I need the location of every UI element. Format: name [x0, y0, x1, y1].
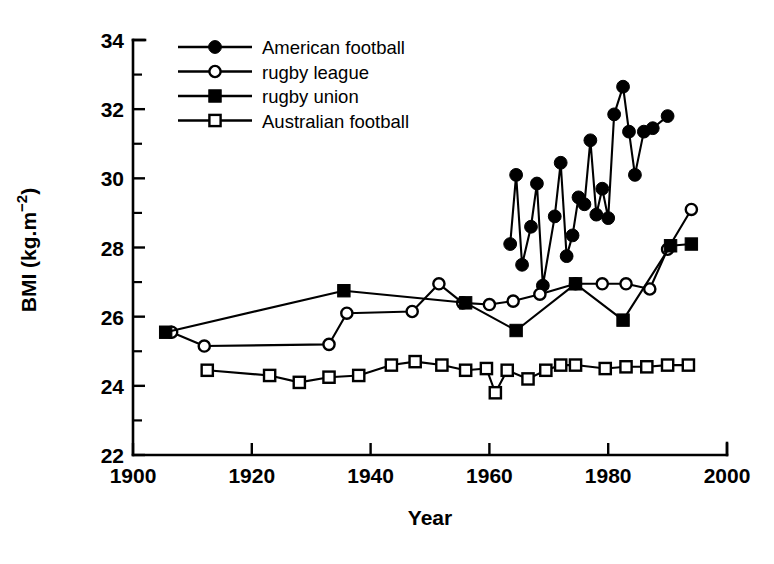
data-point-1-4: [407, 306, 418, 317]
data-point-3-12: [522, 373, 533, 384]
data-point-2-3: [510, 324, 522, 336]
data-point-0-15: [602, 212, 615, 225]
series-american-football: [504, 80, 674, 292]
data-point-3-15: [570, 359, 581, 370]
data-point-0-14: [596, 182, 609, 195]
legend-label-3: Australian football: [262, 111, 409, 132]
x-tick-label-1920: 1920: [228, 464, 275, 487]
legend-marker-filled-circle: [209, 41, 222, 54]
bmi-trend-line-chart: 22242628303234 190019201940196019802000 …: [0, 0, 774, 564]
data-point-3-17: [620, 361, 631, 372]
data-point-3-3: [323, 372, 334, 383]
legend-marker-open-circle: [209, 66, 220, 77]
series-rugby-league: [166, 204, 697, 352]
data-point-0-22: [661, 110, 674, 123]
x-tick-label-1960: 1960: [466, 464, 513, 487]
x-tick-label-1980: 1980: [585, 464, 632, 487]
y-tick-label-32: 32: [101, 98, 124, 121]
data-point-1-2: [323, 339, 334, 350]
data-point-2-6: [664, 240, 676, 252]
data-point-0-2: [516, 258, 529, 271]
legend-item-american-football[interactable]: American football: [178, 37, 405, 58]
y-axis-ticks: [133, 40, 145, 455]
data-point-1-11: [597, 278, 608, 289]
y-axis-title-exponent: −2: [13, 195, 30, 212]
y-axis-tick-labels: 22242628303234: [101, 29, 125, 467]
x-axis-title: Year: [408, 506, 452, 529]
data-point-2-7: [685, 238, 697, 250]
y-tick-label-30: 30: [101, 167, 124, 190]
legend-marker-open-square: [209, 115, 220, 126]
y-axis-title-base: BMI (kg.m: [17, 212, 40, 312]
data-point-1-1: [199, 340, 210, 351]
y-tick-label-28: 28: [101, 237, 125, 260]
data-point-3-8: [460, 365, 471, 376]
data-point-1-12: [620, 278, 631, 289]
data-point-1-9: [534, 289, 545, 300]
series-rugby-union: [159, 238, 697, 339]
y-tick-label-26: 26: [101, 306, 124, 329]
data-point-0-6: [548, 210, 561, 223]
data-point-0-8: [560, 250, 573, 263]
data-point-3-19: [662, 359, 673, 370]
data-point-3-14: [555, 359, 566, 370]
data-point-2-1: [338, 285, 350, 297]
x-tick-label-1940: 1940: [347, 464, 394, 487]
data-point-2-0: [159, 326, 171, 338]
y-axis-title-tail: ): [17, 188, 40, 195]
x-tick-label-1900: 1900: [110, 464, 157, 487]
data-point-3-9: [481, 363, 492, 374]
data-point-2-2: [459, 297, 471, 309]
data-point-3-18: [641, 361, 652, 372]
data-point-0-4: [531, 177, 544, 190]
data-point-3-2: [294, 377, 305, 388]
data-point-2-4: [569, 278, 581, 290]
data-point-0-12: [584, 134, 597, 147]
x-tick-label-2000: 2000: [704, 464, 751, 487]
legend-item-rugby-league[interactable]: rugby league: [178, 62, 369, 83]
data-point-3-7: [436, 359, 447, 370]
data-point-0-16: [608, 108, 621, 121]
data-point-0-0: [504, 238, 517, 251]
data-point-1-8: [508, 296, 519, 307]
y-tick-label-24: 24: [101, 375, 125, 398]
data-point-3-6: [410, 356, 421, 367]
data-point-0-18: [623, 125, 636, 138]
data-point-0-3: [525, 220, 538, 233]
series-line-1: [172, 209, 692, 346]
data-point-3-10: [490, 387, 501, 398]
data-point-0-11: [578, 198, 591, 211]
data-point-0-1: [510, 168, 523, 181]
x-axis-tick-labels: 190019201940196019802000: [110, 464, 751, 487]
legend-item-rugby-union[interactable]: rugby union: [178, 86, 359, 107]
legend-marker-filled-square: [209, 90, 221, 102]
chart-figure: 22242628303234 190019201940196019802000 …: [0, 0, 774, 564]
y-axis-title-text: BMI (kg.m−2): [13, 188, 40, 312]
data-point-3-5: [386, 359, 397, 370]
legend-label-2: rugby union: [262, 86, 359, 107]
data-point-3-11: [502, 365, 513, 376]
chart-legend: American footballrugby leaguerugby union…: [178, 37, 409, 132]
y-tick-label-34: 34: [101, 29, 125, 52]
legend-item-australian-football[interactable]: Australian football: [178, 111, 409, 132]
chart-series-group: [159, 80, 697, 398]
data-point-1-15: [686, 204, 697, 215]
data-point-3-4: [353, 370, 364, 381]
data-point-3-20: [683, 359, 694, 370]
data-point-0-17: [617, 80, 630, 93]
data-point-3-1: [264, 370, 275, 381]
x-axis-ticks: [133, 443, 727, 455]
data-point-2-5: [617, 314, 629, 326]
data-point-1-5: [433, 278, 444, 289]
data-point-1-7: [484, 299, 495, 310]
data-point-0-7: [554, 156, 567, 169]
legend-label-1: rugby league: [262, 62, 369, 83]
series-line-2: [166, 244, 692, 332]
data-point-0-21: [646, 122, 659, 135]
data-point-3-0: [202, 365, 213, 376]
data-point-0-19: [629, 168, 642, 181]
data-point-1-3: [341, 308, 352, 319]
y-axis-title: BMI (kg.m−2): [13, 188, 40, 312]
chart-axes: [133, 40, 727, 455]
data-point-3-16: [600, 363, 611, 374]
